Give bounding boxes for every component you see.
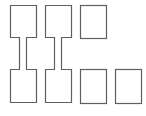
dumbbell-1-shape — [11, 6, 37, 103]
diagram-canvas — [0, 0, 146, 116]
box-bottom-4-shape — [116, 70, 142, 104]
box-bottom-3-shape — [81, 70, 107, 104]
shapes-layer — [11, 6, 142, 104]
dumbbell-2-shape — [46, 6, 72, 103]
box-top-right-shape — [81, 6, 107, 39]
